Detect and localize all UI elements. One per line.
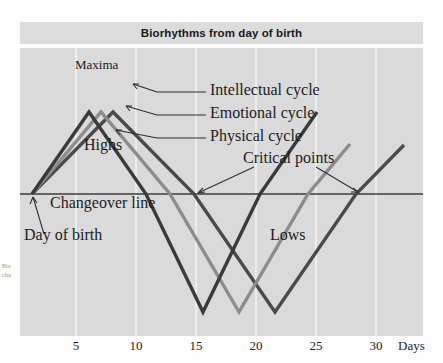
chart-title: Biorhythms from day of birth <box>141 27 302 39</box>
annotation-maxima: Maxima <box>75 57 118 73</box>
x-tick-30: 30 <box>370 338 383 354</box>
legend-leader-lines <box>157 92 206 138</box>
legend-label-physical-cycle: Physical cycle <box>210 127 302 145</box>
legend-label-emotional-cycle: Emotional cycle <box>210 104 314 122</box>
x-tick-5: 5 <box>73 338 80 354</box>
page-edge-artifact: Biorhythm chart <box>2 262 11 332</box>
x-tick-15: 15 <box>190 338 203 354</box>
biorhythm-figure: Biorhythm chart Biorhythms from day of b… <box>0 0 443 363</box>
plot-area: Maxima Highs Lows Changeover line Day of… <box>20 48 423 336</box>
legend-label-intellectual-cycle: Intellectual cycle <box>210 81 320 99</box>
annotation-lows: Lows <box>270 226 306 244</box>
x-tick-25: 25 <box>310 338 323 354</box>
annotation-changeover-line: Changeover line <box>50 194 155 212</box>
x-axis-labels: 5 10 15 20 25 30 Days <box>0 338 443 360</box>
x-axis-unit-label: Days <box>398 338 425 354</box>
annotation-critical-points: Critical points <box>243 149 334 167</box>
x-tick-10: 10 <box>130 338 143 354</box>
annotation-day-of-birth: Day of birth <box>24 226 102 244</box>
series-emotional-cycle <box>32 112 350 312</box>
x-tick-20: 20 <box>250 338 263 354</box>
chart-title-bar: Biorhythms from day of birth <box>20 22 423 44</box>
annotation-highs: Highs <box>84 136 122 154</box>
